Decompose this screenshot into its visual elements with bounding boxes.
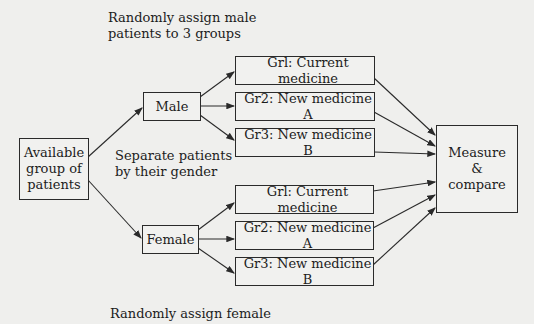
node-line: compare [448, 177, 505, 193]
node-line: Available [24, 145, 84, 161]
node-line: Measure [448, 145, 506, 161]
female-assign-annotation: Randomly assign female [110, 306, 271, 322]
male-node: Male [143, 92, 201, 121]
female-group-1-node: Grl: Current medicine [235, 185, 374, 214]
annotation-line: Separate patients [115, 148, 232, 164]
annotation-line: patients to 3 groups [108, 26, 256, 42]
node-line: patients [27, 177, 80, 193]
annotation-line: Randomly assign male [108, 10, 256, 26]
female-group-3-node: Gr3: New medicine B [235, 257, 374, 286]
male-group-1-node: Grl: Current medicine [235, 56, 375, 85]
female-group-2-node: Gr2: New medicine A [235, 221, 374, 250]
male-assign-annotation: Randomly assign male patients to 3 group… [108, 10, 256, 42]
separate-annotation: Separate patients by their gender [115, 148, 232, 180]
male-group-2-node: Gr2: New medicine A [235, 92, 375, 121]
node-line: & [471, 161, 483, 177]
available-patients-node: Available group of patients [19, 138, 89, 200]
female-node: Female [142, 225, 199, 254]
male-group-3-node: Gr3: New medicine B [235, 128, 375, 157]
annotation-line: by their gender [115, 164, 232, 180]
measure-compare-node: Measure & compare [436, 125, 518, 213]
node-line: group of [26, 161, 82, 177]
